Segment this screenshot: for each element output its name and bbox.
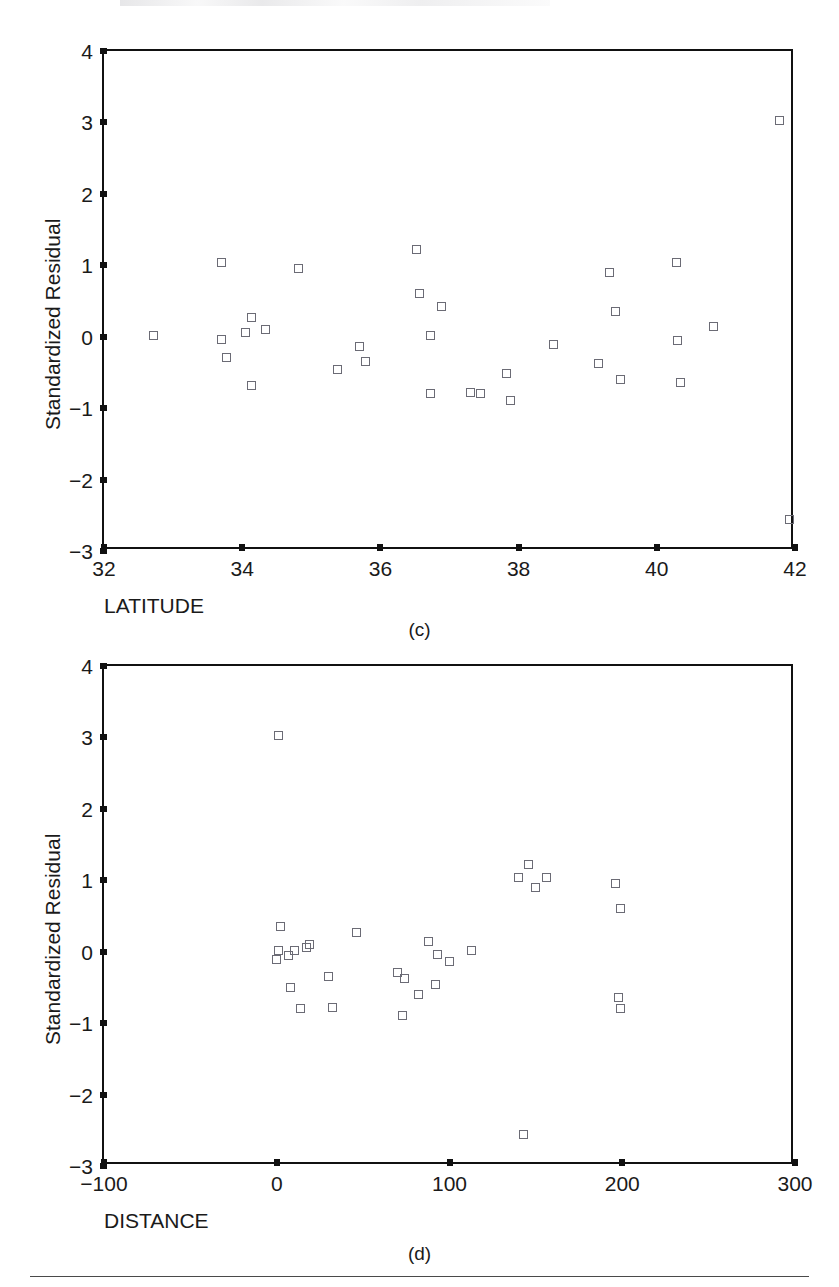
data-point: [400, 974, 409, 983]
data-point: [274, 946, 283, 955]
data-point: [466, 388, 475, 397]
data-point: [361, 357, 370, 366]
x-tick-c-2: [377, 544, 383, 551]
y-tick-label-c-3: 0: [81, 326, 93, 347]
x-tick-label-d-0: −100: [80, 1173, 127, 1194]
x-axis-title-c: LATITUDE: [104, 595, 204, 616]
data-point: [431, 980, 440, 989]
y-tick-c-2: [100, 405, 107, 411]
y-tick-label-c-5: 2: [81, 183, 93, 204]
data-point: [594, 359, 603, 368]
data-point: [355, 342, 364, 351]
data-point: [412, 245, 421, 254]
data-point: [398, 1011, 407, 1020]
x-tick-d-3: [619, 1159, 625, 1166]
data-point: [445, 957, 454, 966]
data-point: [328, 1003, 337, 1012]
data-point: [274, 731, 283, 740]
x-tick-c-3: [516, 544, 522, 551]
y-tick-label-d-6: 3: [81, 727, 93, 748]
y-tick-d-5: [100, 806, 107, 812]
y-tick-label-c-2: −1: [69, 398, 93, 419]
y-axis-title-d: Standardized Residual: [42, 834, 63, 1045]
plot-area-d: −3−2−101234−1000100200300: [104, 666, 791, 1162]
y-tick-c-4: [100, 262, 107, 268]
data-point: [616, 375, 625, 384]
data-point: [676, 378, 685, 387]
plot-frame-c: −3−2−101234323436384042: [102, 49, 793, 549]
y-tick-c-6: [100, 119, 107, 125]
data-point: [424, 937, 433, 946]
panel-c: Standardized Residual LATITUDE −3−2−1012…: [0, 0, 839, 640]
y-tick-d-6: [100, 734, 107, 740]
x-tick-label-c-3: 38: [507, 558, 530, 579]
panel-caption-c: (c): [0, 620, 839, 639]
data-point: [531, 883, 540, 892]
y-tick-d-7: [100, 663, 107, 669]
data-point: [785, 515, 794, 524]
data-point: [549, 340, 558, 349]
data-point: [286, 983, 295, 992]
data-point: [324, 972, 333, 981]
data-point: [467, 946, 476, 955]
data-point: [415, 289, 424, 298]
data-point: [247, 381, 256, 390]
data-point: [616, 1004, 625, 1013]
data-point: [296, 1004, 305, 1013]
data-point: [524, 860, 533, 869]
y-tick-d-4: [100, 877, 107, 883]
data-point: [426, 331, 435, 340]
data-point: [433, 950, 442, 959]
x-tick-d-0: [101, 1159, 107, 1166]
y-tick-label-c-6: 3: [81, 112, 93, 133]
data-point: [519, 1130, 528, 1139]
x-tick-label-d-2: 100: [432, 1173, 467, 1194]
x-tick-c-1: [239, 544, 245, 551]
y-tick-label-c-7: 4: [81, 41, 93, 62]
data-point: [542, 873, 551, 882]
x-tick-c-5: [792, 544, 798, 551]
x-tick-c-0: [101, 544, 107, 551]
y-tick-label-d-5: 2: [81, 798, 93, 819]
y-tick-d-2: [100, 1020, 107, 1026]
data-point: [305, 940, 314, 949]
data-point: [276, 922, 285, 931]
y-tick-c-3: [100, 334, 107, 340]
data-point: [614, 993, 623, 1002]
x-tick-label-d-4: 300: [777, 1173, 812, 1194]
data-point: [426, 389, 435, 398]
data-point: [506, 396, 515, 405]
y-tick-c-1: [100, 477, 107, 483]
x-tick-label-d-3: 200: [605, 1173, 640, 1194]
data-point: [290, 946, 299, 955]
data-point: [673, 336, 682, 345]
x-tick-d-4: [792, 1159, 798, 1166]
data-point: [247, 313, 256, 322]
data-point: [414, 990, 423, 999]
y-tick-label-d-2: −1: [69, 1013, 93, 1034]
x-tick-label-c-0: 32: [92, 558, 115, 579]
data-point: [514, 873, 523, 882]
data-point: [709, 322, 718, 331]
data-point: [605, 268, 614, 277]
data-point: [149, 331, 158, 340]
data-point: [217, 258, 226, 267]
data-point: [333, 365, 342, 374]
data-point: [241, 328, 250, 337]
y-tick-label-c-1: −2: [69, 469, 93, 490]
y-tick-label-c-0: −3: [69, 541, 93, 562]
panel-d: Standardized Residual DISTANCE −3−2−1012…: [0, 640, 839, 1260]
y-tick-label-d-1: −2: [69, 1084, 93, 1105]
y-tick-c-5: [100, 191, 107, 197]
data-point: [352, 928, 361, 937]
data-point: [272, 955, 281, 964]
data-point: [294, 264, 303, 273]
y-tick-label-c-4: 1: [81, 255, 93, 276]
x-tick-label-c-1: 34: [231, 558, 254, 579]
data-point: [672, 258, 681, 267]
data-point: [261, 325, 270, 334]
x-tick-label-c-2: 36: [369, 558, 392, 579]
x-tick-label-c-5: 42: [783, 558, 806, 579]
y-tick-c-7: [100, 48, 107, 54]
data-point: [502, 369, 511, 378]
